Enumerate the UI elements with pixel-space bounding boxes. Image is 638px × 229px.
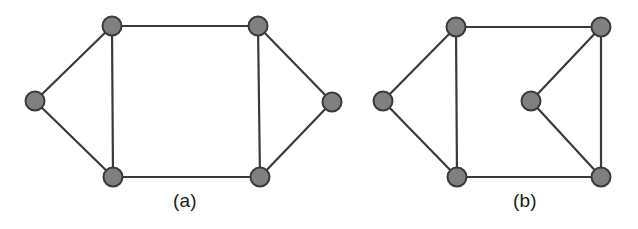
graph-edge-a-top-right-to-a-right xyxy=(258,26,332,102)
node-a-bottom-left xyxy=(104,168,123,187)
edges-layer xyxy=(35,26,601,177)
graph-edge-b-left-to-b-bottom-left xyxy=(383,101,457,177)
graph-edge-b-middle-to-b-bottom-right xyxy=(531,101,601,177)
node-b-middle xyxy=(522,92,541,111)
node-b-top-left xyxy=(447,18,466,37)
node-b-bottom-right xyxy=(592,168,611,187)
graph-edge-a-left-to-a-top-left xyxy=(35,26,112,101)
node-b-bottom-left xyxy=(448,168,467,187)
node-a-right xyxy=(323,93,342,112)
panel-caption-b: (b) xyxy=(485,190,565,212)
graph-edge-b-left-to-b-top-left xyxy=(383,27,456,101)
graph-edge-a-left-to-a-bottom-left xyxy=(35,101,113,177)
graph-edge-b-top-left-to-b-bottom-left xyxy=(456,27,457,177)
graph-edge-a-top-right-to-a-bottom-right xyxy=(258,26,260,177)
node-a-top-right xyxy=(249,17,268,36)
node-b-left xyxy=(374,92,393,111)
graph-edge-a-top-left-to-a-bottom-left xyxy=(112,26,113,177)
figure-container: (a) (b) xyxy=(0,0,638,229)
panel-caption-a: (a) xyxy=(145,190,225,212)
graph-edge-b-top-right-to-b-middle xyxy=(531,27,601,101)
graph-edge-a-right-to-a-bottom-right xyxy=(260,102,332,177)
node-a-left xyxy=(26,92,45,111)
node-a-top-left xyxy=(103,17,122,36)
node-a-bottom-right xyxy=(251,168,270,187)
node-b-top-right xyxy=(592,18,611,37)
